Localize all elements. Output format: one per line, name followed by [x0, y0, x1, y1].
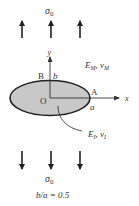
origin-label: O — [40, 96, 47, 106]
aspect-ratio-label: b/a = 0.5 — [36, 190, 70, 200]
bottom-stress-label: σ0 — [45, 173, 54, 186]
semi-axis-a-label: a — [90, 102, 95, 112]
inclusion-diagram: σ0 y x B b O A a EM, νM EI, νI σ0 b/a = … — [0, 0, 139, 206]
top-stress-arrows — [22, 21, 80, 38]
bottom-stress-arrows — [22, 151, 80, 169]
point-b-label: B — [38, 71, 44, 81]
point-a-label: A — [91, 87, 98, 97]
semi-axis-b-label: b — [53, 71, 58, 81]
inclusion-properties-label: EI, νI — [87, 129, 107, 140]
matrix-properties-label: EM, νM — [84, 60, 110, 71]
x-axis-label: x — [124, 94, 129, 103]
top-stress-label: σ0 — [45, 5, 54, 18]
y-axis-label: y — [47, 48, 52, 57]
